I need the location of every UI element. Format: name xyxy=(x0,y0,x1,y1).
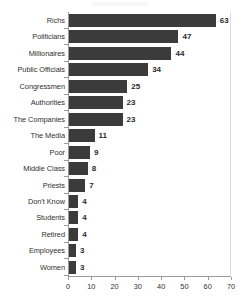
category-label: Retired xyxy=(0,228,65,241)
category-label: Priests xyxy=(0,179,65,192)
bar xyxy=(69,162,88,175)
x-axis: 010203040506070 xyxy=(0,277,241,304)
y-axis-tick xyxy=(64,77,68,78)
bar xyxy=(69,195,78,208)
x-axis-tick xyxy=(208,277,209,280)
bar-row: Authorities23 xyxy=(0,96,241,109)
bar-value-label: 44 xyxy=(175,47,184,60)
bar-value-label: 63 xyxy=(220,14,229,27)
bar-value-label: 9 xyxy=(94,146,98,159)
category-label: Congressmen xyxy=(0,80,65,93)
bar xyxy=(69,63,148,76)
bar-value-label: 11 xyxy=(99,129,107,142)
bar-row: The Companies23 xyxy=(0,113,241,126)
y-axis-tick xyxy=(64,258,68,259)
x-axis-tick xyxy=(91,277,92,280)
y-axis-tick xyxy=(64,94,68,95)
bar-value-label: 23 xyxy=(127,113,136,126)
bar-value-label: 23 xyxy=(127,96,136,109)
bar-row: Millionaires44 xyxy=(0,47,241,60)
bar-row: Don't Know4 xyxy=(0,195,241,208)
y-axis-tick xyxy=(64,193,68,194)
category-label: Middle Class xyxy=(0,162,65,175)
category-label: Public Officials xyxy=(0,63,65,76)
x-axis-tick-label: 60 xyxy=(196,282,220,292)
bar xyxy=(69,96,123,109)
bar-row: The Media11 xyxy=(0,129,241,142)
bar-value-label: 8 xyxy=(92,162,96,175)
y-axis-tick xyxy=(64,160,68,161)
bar-value-label: 3 xyxy=(80,244,84,257)
bar-value-label: 7 xyxy=(89,179,93,192)
bar-row: Middle Class8 xyxy=(0,162,241,175)
bar xyxy=(69,211,78,224)
category-label: Don't Know xyxy=(0,195,65,208)
bar-value-label: 4 xyxy=(82,228,86,241)
x-axis-tick-label: 30 xyxy=(126,282,150,292)
bar-value-label: 3 xyxy=(80,261,84,274)
bar-row: Politicians47 xyxy=(0,30,241,43)
y-axis-tick xyxy=(64,61,68,62)
category-label: Politicians xyxy=(0,30,65,43)
x-axis-tick-label: 20 xyxy=(103,282,127,292)
category-label: The Companies xyxy=(0,113,65,126)
x-axis-tick-label: 50 xyxy=(172,282,196,292)
bar xyxy=(69,113,123,126)
bar xyxy=(69,47,171,60)
y-axis-tick xyxy=(64,127,68,128)
bar-row: Women3 xyxy=(0,261,241,274)
y-axis-tick xyxy=(64,176,68,177)
category-label: Poor xyxy=(0,146,65,159)
x-axis-tick-label: 0 xyxy=(56,282,80,292)
y-axis-tick xyxy=(64,143,68,144)
bar xyxy=(69,244,76,257)
horizontal-bar-chart: Richs63Politicians47Millionaires44Public… xyxy=(0,0,241,304)
y-axis-tick xyxy=(64,209,68,210)
bar xyxy=(69,261,76,274)
y-axis-tick xyxy=(64,44,68,45)
bar-row: Priests7 xyxy=(0,179,241,192)
x-axis-tick xyxy=(138,277,139,280)
bar xyxy=(69,80,127,93)
bar xyxy=(69,129,95,142)
y-axis-tick xyxy=(64,242,68,243)
category-label: The Media xyxy=(0,129,65,142)
bar xyxy=(69,14,216,27)
bar xyxy=(69,30,178,43)
x-axis-tick-label: 70 xyxy=(219,282,241,292)
category-label: Employees xyxy=(0,244,65,257)
bar-row: Richs63 xyxy=(0,14,241,27)
x-axis-tick xyxy=(115,277,116,280)
bar-value-label: 4 xyxy=(82,211,86,224)
bar-row: Congressmen25 xyxy=(0,80,241,93)
y-axis-tick xyxy=(64,110,68,111)
category-label: Women xyxy=(0,261,65,274)
bar xyxy=(69,228,78,241)
y-axis-tick xyxy=(64,275,68,276)
x-axis-tick xyxy=(68,277,69,280)
bar-row: Students4 xyxy=(0,211,241,224)
bar xyxy=(69,146,90,159)
x-axis-tick-label: 10 xyxy=(79,282,103,292)
bar-rows-container: Richs63Politicians47Millionaires44Public… xyxy=(0,0,241,304)
category-label: Authorities xyxy=(0,96,65,109)
y-axis-tick xyxy=(64,28,68,29)
bar xyxy=(69,179,85,192)
x-axis-tick xyxy=(161,277,162,280)
bar-value-label: 4 xyxy=(82,195,86,208)
x-axis-tick-label: 40 xyxy=(149,282,173,292)
x-axis-tick xyxy=(231,277,232,280)
bar-value-label: 34 xyxy=(152,63,161,76)
bar-value-label: 25 xyxy=(131,80,140,93)
x-axis-tick xyxy=(184,277,185,280)
bar-row: Employees3 xyxy=(0,244,241,257)
category-label: Richs xyxy=(0,14,65,27)
bar-row: Public Officials34 xyxy=(0,63,241,76)
y-axis-tick xyxy=(64,225,68,226)
category-label: Students xyxy=(0,211,65,224)
bar-row: Retired4 xyxy=(0,228,241,241)
bar-value-label: 47 xyxy=(182,30,191,43)
category-label: Millionaires xyxy=(0,47,65,60)
bar-row: Poor9 xyxy=(0,146,241,159)
